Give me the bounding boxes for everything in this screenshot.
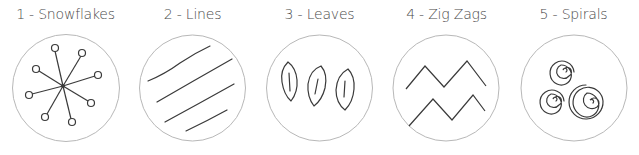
zigzag-icon — [406, 61, 486, 126]
snowflake-icon — [26, 45, 102, 126]
circle-frame — [521, 35, 627, 141]
diagonal-lines-icon — [148, 46, 234, 131]
spirals-icon — [540, 61, 603, 119]
circle-frame — [393, 35, 499, 141]
leaves-icon — [282, 62, 355, 110]
circle-frame — [267, 35, 373, 141]
circle-frame — [140, 35, 246, 141]
patterns-canvas — [0, 0, 639, 155]
